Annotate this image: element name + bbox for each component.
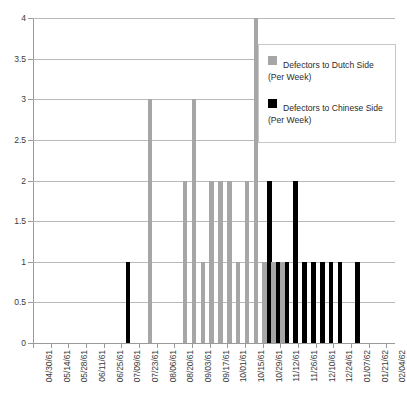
x-tick-label: 01/07/62: [362, 350, 372, 382]
x-tick-mark: [174, 344, 175, 348]
x-tick-mark: [51, 344, 52, 348]
y-tick-label: 1: [0, 258, 26, 266]
x-tick-label: 06/25/61: [115, 350, 125, 382]
x-tick-label: 07/23/61: [150, 350, 160, 382]
legend-label-dutch: Defectors to Dutch Side (Per Week): [268, 60, 392, 84]
legend-label-chinese-line2: (Per Week): [268, 115, 392, 127]
bar: [293, 181, 298, 344]
legend-label-chinese-line1: Defectors to Chinese Side: [283, 103, 383, 113]
legend-label-dutch-line2: (Per Week): [268, 72, 392, 84]
x-tick-label: 12/10/61: [327, 350, 337, 382]
x-tick-label: 10/29/61: [274, 350, 284, 382]
x-tick-label: 10/01/61: [238, 350, 248, 382]
x-tick-mark: [280, 344, 281, 348]
bar: [320, 262, 325, 343]
bar: [311, 262, 316, 343]
bar: [302, 262, 307, 343]
x-tick-label: 10/15/61: [256, 350, 266, 382]
bar: [338, 262, 343, 343]
x-tick-mark: [351, 344, 352, 348]
bar: [183, 181, 188, 344]
legend-label-dutch-line1: Defectors to Dutch Side: [283, 60, 374, 70]
bar: [245, 181, 250, 344]
x-tick-mark: [121, 344, 122, 348]
x-tick-label: 05/14/61: [62, 350, 72, 382]
x-tick-mark: [139, 344, 140, 348]
bar: [329, 262, 334, 343]
x-tick-mark: [369, 344, 370, 348]
x-tick-mark: [104, 344, 105, 348]
bar: [236, 262, 241, 343]
bar: [201, 262, 206, 343]
y-tick-label: 3.5: [0, 55, 26, 63]
bar: [285, 262, 290, 343]
x-tick-label: 09/03/61: [203, 350, 213, 382]
x-tick-mark: [245, 344, 246, 348]
x-tick-mark: [210, 344, 211, 348]
y-tick-label: 0.5: [0, 298, 26, 306]
y-tick-label: 4: [0, 14, 26, 22]
x-tick-label: 11/26/61: [309, 350, 319, 382]
x-tick-mark: [298, 344, 299, 348]
y-tick-label: 2.5: [0, 136, 26, 144]
x-tick-mark: [263, 344, 264, 348]
x-tick-mark: [386, 344, 387, 348]
x-tick-label: 01/21/62: [380, 350, 390, 382]
bar: [227, 181, 232, 344]
x-tick-label: 09/17/61: [221, 350, 231, 382]
legend-swatch-chinese: [268, 99, 277, 108]
x-tick-mark: [333, 344, 334, 348]
x-tick-label: 12/24/61: [344, 350, 354, 382]
bar: [148, 99, 153, 343]
chart-legend: Defectors to Dutch Side (Per Week) Defec…: [258, 44, 396, 143]
legend-entry-chinese: Defectors to Chinese Side (Per Week): [268, 97, 392, 127]
x-tick-mark: [316, 344, 317, 348]
bar: [355, 262, 360, 343]
x-tick-label: 08/20/61: [185, 350, 195, 382]
legend-label-chinese: Defectors to Chinese Side (Per Week): [268, 103, 392, 127]
bar: [218, 181, 223, 344]
x-tick-mark: [227, 344, 228, 348]
x-tick-mark: [68, 344, 69, 348]
legend-swatch-dutch: [268, 56, 277, 65]
bar: [209, 181, 214, 344]
y-tick-label: 1.5: [0, 217, 26, 225]
x-tick-label: 02/04/62: [397, 350, 407, 382]
bar: [192, 99, 197, 343]
x-tick-label: 05/28/61: [79, 350, 89, 382]
x-tick-label: 04/30/61: [44, 350, 54, 382]
x-tick-label: 06/11/61: [97, 350, 107, 382]
legend-entry-dutch: Defectors to Dutch Side (Per Week): [268, 54, 392, 84]
x-tick-label: 08/06/61: [168, 350, 178, 382]
y-tick-label: 2: [0, 177, 26, 185]
y-tick-label: 0: [0, 339, 26, 347]
bar: [126, 262, 131, 343]
x-tick-label: 11/12/61: [291, 350, 301, 382]
x-tick-mark: [192, 344, 193, 348]
y-tick-label: 3: [0, 95, 26, 103]
x-tick-mark: [86, 344, 87, 348]
x-tick-mark: [33, 344, 34, 348]
x-axis-line: [33, 343, 395, 344]
x-tick-mark: [157, 344, 158, 348]
x-tick-label: 07/09/61: [132, 350, 142, 382]
